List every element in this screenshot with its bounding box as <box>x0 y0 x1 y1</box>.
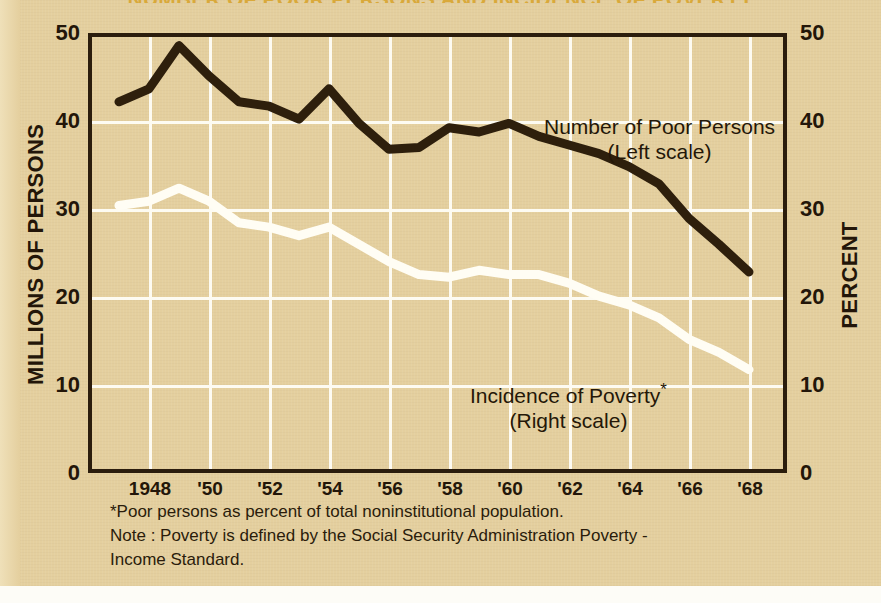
y-left-tick-10: 10 <box>38 374 80 396</box>
y-right-tick-20: 20 <box>800 286 824 308</box>
y-right-tick-10: 10 <box>800 374 824 396</box>
annotation-light-text: Incidence of Poverty <box>470 384 660 407</box>
y-left-tick-30: 30 <box>38 198 80 220</box>
y-right-tick-0: 0 <box>800 462 812 484</box>
page-bottom-margin <box>0 586 881 603</box>
plot-area: Number of Poor Persons (Left scale) Inci… <box>88 33 787 473</box>
chart-title: NUMBER OF POOR PERSONS AND INCIDENCE OF … <box>0 0 881 3</box>
annotation-dark-line2: (Left scale) <box>544 140 775 165</box>
incidence-of-poverty-line <box>119 188 749 369</box>
plot-inner: Number of Poor Persons (Left scale) Inci… <box>92 37 783 469</box>
y-left-tick-40: 40 <box>38 110 80 132</box>
y-right-tick-40: 40 <box>800 110 824 132</box>
x-tick-1958: '58 <box>437 478 463 500</box>
y-left-tick-20: 20 <box>38 286 80 308</box>
chart-page: NUMBER OF POOR PERSONS AND INCIDENCE OF … <box>0 0 881 603</box>
x-tick-1966: '66 <box>677 478 703 500</box>
annotation-light-line2: (Right scale) <box>470 409 667 434</box>
y-left-tick-0: 0 <box>38 462 80 484</box>
x-tick-1962: '62 <box>557 478 583 500</box>
series-svg <box>92 37 783 469</box>
footnotes: *Poor persons as percent of total nonins… <box>110 500 810 572</box>
annotation-incidence-of-poverty: Incidence of Poverty* (Right scale) <box>470 380 667 434</box>
x-tick-1948: 1948 <box>129 478 171 500</box>
y-right-tick-50: 50 <box>800 22 824 44</box>
footnote-star: * <box>660 380 667 399</box>
paper-left-edge <box>0 0 20 586</box>
footnote-line-1: *Poor persons as percent of total nonins… <box>110 500 810 524</box>
x-tick-1968: '68 <box>737 478 763 500</box>
annotation-dark-line1: Number of Poor Persons <box>544 115 775 140</box>
x-tick-1956: '56 <box>377 478 403 500</box>
annotation-number-of-poor-persons: Number of Poor Persons (Left scale) <box>544 115 775 165</box>
x-tick-1964: '64 <box>617 478 643 500</box>
annotation-light-line1: Incidence of Poverty* <box>470 380 667 409</box>
x-tick-1952: '52 <box>257 478 283 500</box>
y-axis-left-ticks: 50 40 30 20 10 0 <box>38 0 80 603</box>
y-right-tick-30: 30 <box>800 198 824 220</box>
footnote-line-3: Income Standard. <box>110 548 810 572</box>
y-left-tick-50: 50 <box>38 22 80 44</box>
x-tick-1950: '50 <box>197 478 223 500</box>
x-tick-1960: '60 <box>497 478 523 500</box>
footnote-line-2: Note : Poverty is defined by the Social … <box>110 524 810 548</box>
x-tick-1954: '54 <box>317 478 343 500</box>
